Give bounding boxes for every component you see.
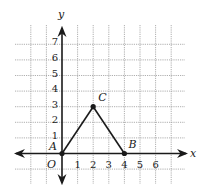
y-tick-label: 7 bbox=[52, 36, 58, 47]
origin-label: O bbox=[47, 158, 56, 171]
y-tick-label: 5 bbox=[52, 68, 58, 79]
y-tick-label: 4 bbox=[52, 83, 58, 94]
x-tick-label: 5 bbox=[137, 159, 143, 170]
point-a-label: A bbox=[48, 140, 57, 153]
x-tick-label: 4 bbox=[121, 159, 127, 170]
x-tick-labels: 123456 bbox=[74, 159, 158, 170]
x-axis-label: x bbox=[190, 147, 197, 160]
y-axis-label: y bbox=[57, 8, 65, 21]
x-tick-label: 2 bbox=[90, 159, 96, 170]
point-c-label: C bbox=[98, 91, 107, 104]
grid bbox=[15, 25, 185, 184]
x-tick-label: 6 bbox=[152, 159, 158, 170]
y-tick-label: 3 bbox=[52, 99, 58, 110]
y-tick-label: 2 bbox=[52, 114, 58, 125]
x-tick-label: 3 bbox=[106, 159, 112, 170]
point-a-dot bbox=[59, 151, 64, 156]
coordinate-plane-diagram: x y O 123456 1234567 ABC bbox=[0, 0, 203, 194]
y-tick-labels: 1234567 bbox=[52, 36, 58, 141]
y-tick-label: 6 bbox=[52, 52, 58, 63]
x-tick-label: 1 bbox=[74, 159, 80, 170]
point-b-label: B bbox=[127, 138, 136, 151]
point-c-dot bbox=[91, 104, 96, 109]
point-b-dot bbox=[122, 151, 127, 156]
